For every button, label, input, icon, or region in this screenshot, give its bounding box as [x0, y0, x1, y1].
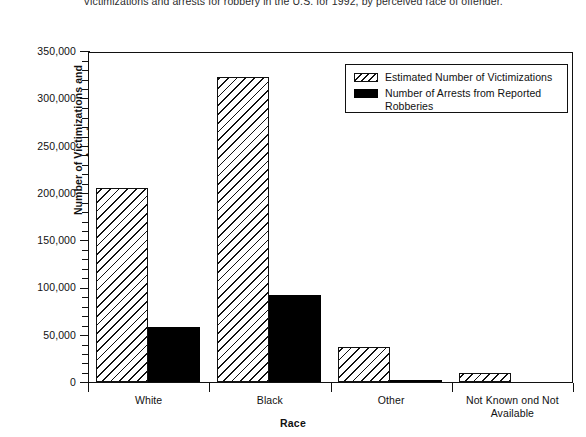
bar	[217, 77, 269, 382]
bar	[96, 188, 148, 382]
x-tick	[452, 383, 453, 392]
bar	[338, 347, 390, 382]
x-tick	[331, 383, 332, 392]
x-category-label: Black	[209, 394, 330, 407]
legend-label-arrests: Number of Arrests from Reported Robberie…	[385, 87, 541, 112]
y-tick-label: 50,000	[4, 329, 76, 341]
bar	[390, 380, 442, 382]
x-category-label: White	[88, 394, 209, 407]
legend-swatch-solid-icon	[354, 89, 378, 98]
y-tick-label: 150,000	[4, 234, 76, 246]
y-tick-label: 300,000	[4, 92, 76, 104]
legend-label-victimizations: Estimated Number of Victimizations	[385, 71, 552, 84]
y-tick-label: 100,000	[4, 281, 76, 293]
legend-swatch-hatch-icon	[354, 73, 378, 82]
x-tick	[209, 383, 210, 392]
legend-item-arrests: Number of Arrests from Reported Robberie…	[354, 87, 541, 112]
y-tick-label: 200,000	[4, 187, 76, 199]
y-tick-label: 0	[4, 376, 76, 388]
x-tick	[88, 383, 89, 392]
x-axis-title: Race	[0, 417, 586, 429]
x-category-label: Other	[331, 394, 452, 407]
chart-legend: Estimated Number of Victimizations Numbe…	[345, 64, 568, 113]
bar	[459, 373, 511, 382]
chart-title: Victimizations and arrests for robbery i…	[0, 0, 586, 7]
y-tick-label: 250,000	[4, 140, 76, 152]
y-tick-label: 350,000	[4, 45, 76, 57]
legend-item-victimizations: Estimated Number of Victimizations	[354, 71, 552, 84]
bar	[269, 295, 321, 382]
bar	[148, 327, 200, 382]
x-tick	[573, 383, 574, 392]
